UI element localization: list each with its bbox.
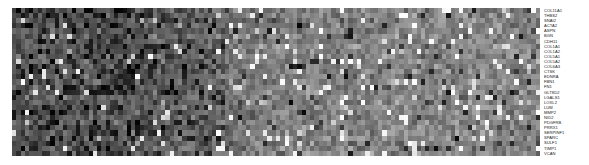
heatmap-figure: COL11A1THBS2SNAI2ACTA2ASPNBGNCDH11COL1A1… [0, 0, 589, 165]
heatmap-grid [12, 8, 540, 156]
row-label-vcan: VCAN [543, 151, 589, 156]
row-label-axis: COL11A1THBS2SNAI2ACTA2ASPNBGNCDH11COL1A1… [543, 8, 589, 156]
heatmap-plot-area [12, 8, 540, 156]
